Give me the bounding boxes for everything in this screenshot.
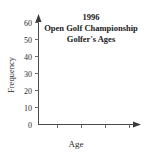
- y-tick-label: 10: [24, 104, 32, 113]
- chart-figure: 1996 Open Golf Championship Golfer's Age…: [0, 0, 148, 160]
- y-tick-label: 50: [24, 36, 32, 45]
- y-tick-label: 0: [28, 121, 32, 130]
- x-axis-title: Age: [69, 139, 84, 149]
- chart-title-line-3: Golfer's Ages: [67, 34, 116, 44]
- y-tick-label: 20: [24, 87, 32, 96]
- y-axis-arrowhead-icon: [36, 14, 42, 22]
- chart-title-line-1: 1996: [83, 12, 100, 22]
- y-tick-label: 60: [24, 19, 32, 28]
- y-tick-label: 30: [24, 70, 32, 79]
- y-tick-label: 40: [24, 53, 32, 62]
- x-axis-arrowhead-icon: [133, 122, 141, 128]
- chart-canvas: 1996 Open Golf Championship Golfer's Age…: [0, 0, 148, 160]
- chart-title-line-2: Open Golf Championship: [44, 23, 138, 33]
- y-axis-title: Frequency: [6, 56, 16, 93]
